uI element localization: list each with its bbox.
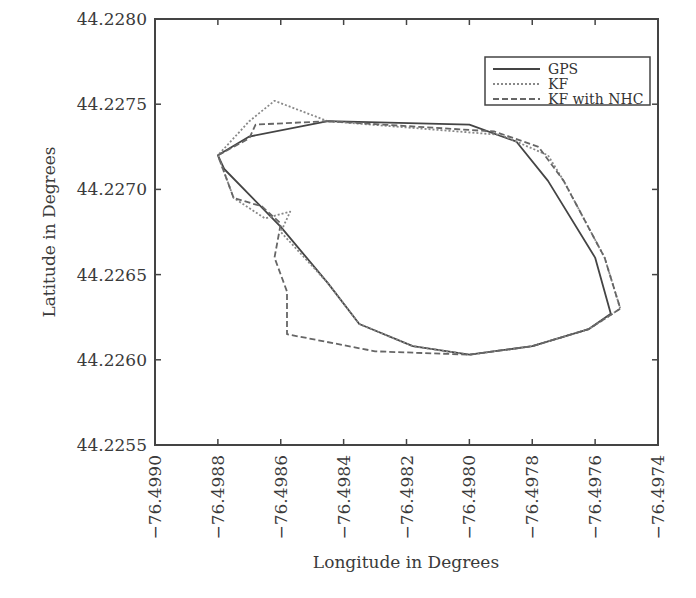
legend-label-kf-nhc: KF with NHC bbox=[548, 91, 643, 107]
x-tick-label: −76.4974 bbox=[648, 455, 668, 540]
x-tick-label: −76.4980 bbox=[459, 455, 479, 540]
x-axis-label: Longitude in Degrees bbox=[313, 552, 499, 572]
x-tick-label: −76.4984 bbox=[334, 455, 354, 540]
y-tick-label: 44.2275 bbox=[77, 94, 147, 114]
y-tick-label: 44.2260 bbox=[77, 350, 147, 370]
x-tick-label: −76.4990 bbox=[145, 455, 165, 540]
series-kf bbox=[218, 101, 620, 355]
x-tick-label: −76.4978 bbox=[522, 455, 542, 540]
x-tick-label: −76.4976 bbox=[585, 455, 605, 540]
series-layer bbox=[218, 101, 620, 355]
y-axis-label: Latitude in Degrees bbox=[39, 146, 59, 317]
y-tick-label: 44.2255 bbox=[77, 435, 147, 455]
y-tick-label: 44.2270 bbox=[77, 179, 147, 199]
x-tick-label: −76.4986 bbox=[271, 455, 291, 540]
legend: GPS KF KF with NHC bbox=[485, 57, 650, 107]
y-tick-label: 44.2280 bbox=[77, 9, 147, 29]
series-kf-with-nhc bbox=[218, 121, 620, 355]
x-tick-label: −76.4982 bbox=[397, 455, 417, 540]
legend-label-kf: KF bbox=[548, 76, 568, 92]
y-tick-label: 44.2265 bbox=[77, 265, 147, 285]
series-gps bbox=[218, 121, 611, 355]
chart-figure: −76.4990−76.4988−76.4986−76.4984−76.4982… bbox=[0, 0, 696, 598]
x-tick-label: −76.4988 bbox=[208, 455, 228, 540]
legend-label-gps: GPS bbox=[548, 61, 578, 77]
